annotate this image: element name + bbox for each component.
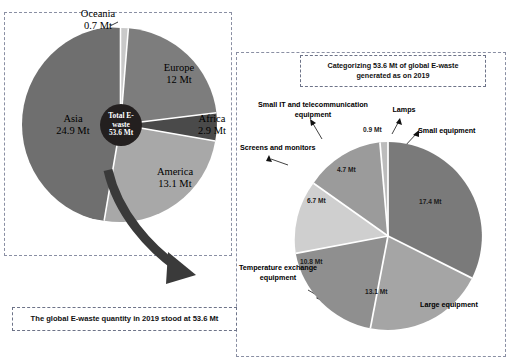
value-screens-and-monitors: 6.7 Mt [307,197,326,204]
value-temperature-exchange-equipment: 10.8 Mt [300,258,322,265]
label-large-equipment: Large equipment [420,300,506,310]
label-asia-value: 24.9 Mt [42,125,104,137]
label-africa-name: Africa [186,113,238,125]
right-chart-title-box: Categorizing 53.6 Mt of global E-waste g… [300,55,486,87]
right-chart-title-line2: generated as on 2019 [305,71,481,81]
bottom-summary-note: The global E-waste quantity in 2019 stoo… [12,307,237,331]
label-asia: Asia 24.9 Mt [42,113,104,137]
label-africa-value: 2.9 Mt [186,125,238,137]
donut-center-total: Total E- waste 53.6 Mt [100,104,142,146]
donut-center-line3: 53.6 Mt [109,129,133,137]
label-america: America 13.1 Mt [142,166,208,190]
label-lamps: Lamps [381,105,427,115]
value-small-it-equipment: 4.7 Mt [337,166,356,173]
label-europe-name: Europe [148,62,210,74]
label-europe: Europe 12 Mt [148,62,210,86]
label-europe-value: 12 Mt [148,74,210,86]
label-small-it-equipment: Small IT and telecommunication equipment [243,100,383,119]
label-oceania: Oceania 0.7 Mt [58,8,138,32]
label-oceania-name: Oceania [58,8,138,20]
label-temperature-exchange-equipment: Temperature exchange equipment [236,263,320,282]
value-large-equipment: 13.1 Mt [365,288,387,295]
label-screens-and-monitors: Screens and monitors [240,143,342,153]
label-asia-name: Asia [42,113,104,125]
value-small-equipment: 17.4 Mt [419,198,441,205]
label-africa: Africa 2.9 Mt [186,113,238,137]
label-america-name: America [142,166,208,178]
value-lamps: 0.9 Mt [363,126,382,133]
label-small-equipment: Small equipment [418,126,504,136]
label-america-value: 13.1 Mt [142,178,208,190]
right-chart-title-line1: Categorizing 53.6 Mt of global E-waste [305,61,481,71]
label-oceania-value: 0.7 Mt [58,20,138,32]
